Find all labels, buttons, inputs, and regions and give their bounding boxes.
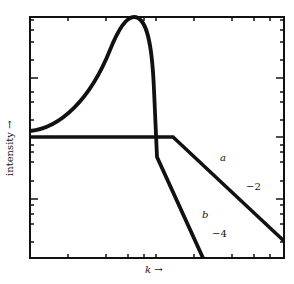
chart-plot [0,0,294,284]
slope-b-label: −4 [212,228,227,239]
y-axis-label: intensity → [4,120,15,176]
series-a-label: a [220,152,226,163]
x-axis-label: k → [145,264,163,275]
series-b-label: b [202,209,208,220]
y-axis-ticks-right [276,20,284,242]
slope-a-label: −2 [246,181,261,192]
